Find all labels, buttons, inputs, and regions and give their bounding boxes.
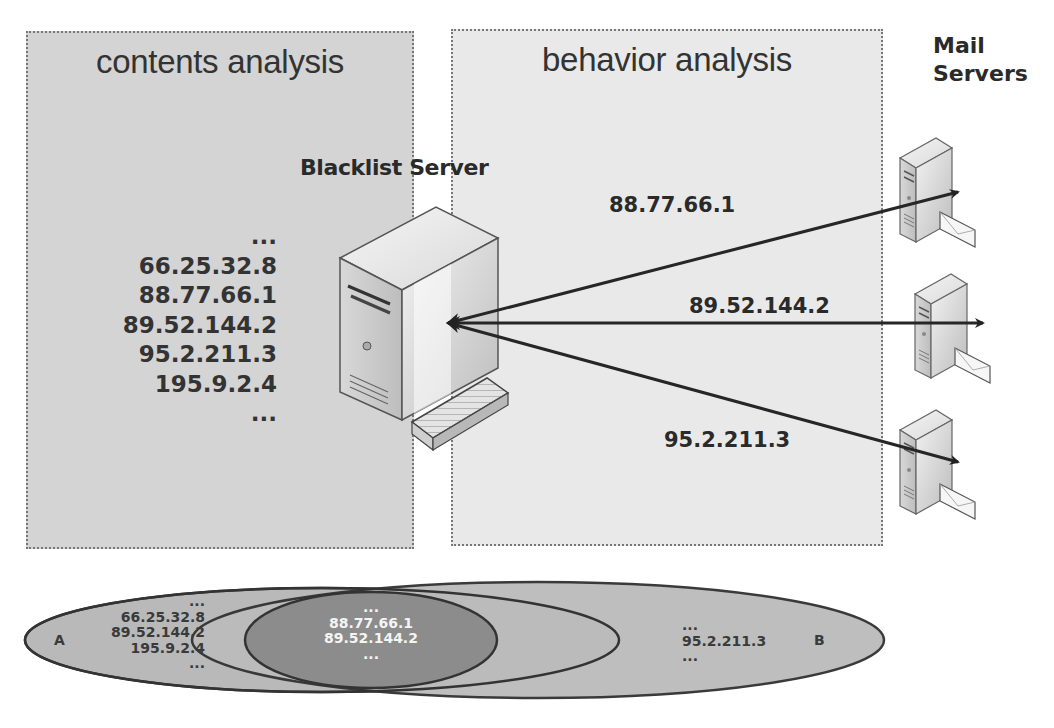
connection-label-1: 88.77.66.1 [609,193,735,217]
blacklist-server-icon [340,207,508,450]
venn-intersection-item: 88.77.66.1 [320,616,422,632]
venn-set-b-item: ... [682,649,766,665]
venn-set-b-label: B [814,633,825,649]
ip-list-item: 89.52.144.2 [123,311,277,341]
mail-server-1-icon [900,138,975,247]
venn-intersection-items: ... 88.77.66.1 89.52.144.2 ... [320,600,422,662]
venn-set-b-item: 95.2.211.3 [682,634,766,650]
mail-servers-label: Mail Servers [933,32,1028,88]
venn-set-a-item: 89.52.144.2 [110,625,205,641]
connection-label-2: 89.52.144.2 [689,294,830,318]
venn-intersection-item: 89.52.144.2 [320,631,422,647]
ip-list-item: ... [123,399,277,429]
venn-set-a-item: 66.25.32.8 [110,610,205,626]
ip-list-item: 195.9.2.4 [123,370,277,400]
venn-set-a-item: ... [110,656,205,672]
venn-intersection-item: ... [320,647,422,663]
mail-server-3-icon [900,410,975,519]
blacklist-server-label: Blacklist Server [300,155,489,180]
mail-server-2-icon [915,274,990,383]
ip-list-item: 66.25.32.8 [123,252,277,282]
ip-list-item: 88.77.66.1 [123,281,277,311]
venn-intersection-item: ... [320,600,422,616]
venn-set-a-label: A [54,633,65,649]
venn-set-a-item: 195.9.2.4 [110,641,205,657]
ip-list-item: ... [123,222,277,252]
venn-set-b-item: ... [682,618,766,634]
connection-label-3: 95.2.211.3 [664,428,790,452]
mail-servers-label-line1: Mail [933,32,1028,60]
blacklist-ip-list: ... 66.25.32.8 88.77.66.1 89.52.144.2 95… [123,222,277,429]
venn-set-b-items: ... 95.2.211.3 ... [682,618,766,665]
ip-list-item: 95.2.211.3 [123,340,277,370]
mail-servers-label-line2: Servers [933,60,1028,88]
venn-set-a-item: ... [110,594,205,610]
venn-set-a-items: ... 66.25.32.8 89.52.144.2 195.9.2.4 ... [110,594,205,672]
